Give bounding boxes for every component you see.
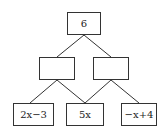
bottom-right-box: −x+4 xyxy=(121,103,157,126)
bottom-center-box: 5x xyxy=(66,103,104,126)
bottom-center-box-label: 5x xyxy=(79,109,91,120)
connector-top-to-middle-right xyxy=(84,35,111,57)
top-box-label: 6 xyxy=(81,18,87,29)
middle-left-box xyxy=(39,57,75,80)
connector-middle-left-to-bottom-center xyxy=(57,80,85,103)
bottom-right-box-label: −x+4 xyxy=(125,109,154,120)
bottom-left-box: 2x−3 xyxy=(13,103,54,126)
bottom-left-box-label: 2x−3 xyxy=(20,109,47,120)
middle-right-box xyxy=(93,57,129,80)
connector-middle-right-to-bottom-center xyxy=(85,80,111,103)
top-box: 6 xyxy=(67,12,101,35)
connector-top-to-middle-left xyxy=(57,35,84,57)
connector-middle-right-to-bottom-right xyxy=(111,80,139,103)
connector-middle-left-to-bottom-left xyxy=(30,80,57,103)
